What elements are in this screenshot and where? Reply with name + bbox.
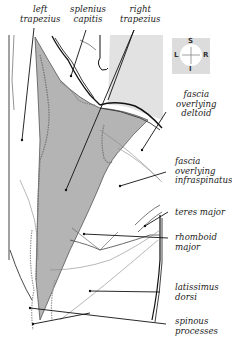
compass-right: R xyxy=(203,51,208,59)
compass-superior: S xyxy=(188,37,193,45)
label-right-trapezius: right trapezius xyxy=(120,5,161,24)
label-left-trapezius: left trapezius xyxy=(20,5,61,24)
label-spinous-processes: spinous processes xyxy=(175,317,218,336)
label-rhomboid-major: rhomboid major xyxy=(175,233,217,252)
label-fascia-infraspinatus: fascia overlying infraspinatus xyxy=(175,157,232,186)
label-teres-major: teres major xyxy=(175,208,225,218)
orientation-compass: S I L R xyxy=(172,38,210,74)
label-splenius-capitis: splenius capitis xyxy=(70,5,106,24)
compass-left: L xyxy=(174,51,178,59)
label-latissimus-dorsi: latissimus dorsi xyxy=(175,283,219,302)
compass-inferior: I xyxy=(189,65,192,73)
label-fascia-deltoid: fascia overlying deltoid xyxy=(176,90,217,119)
